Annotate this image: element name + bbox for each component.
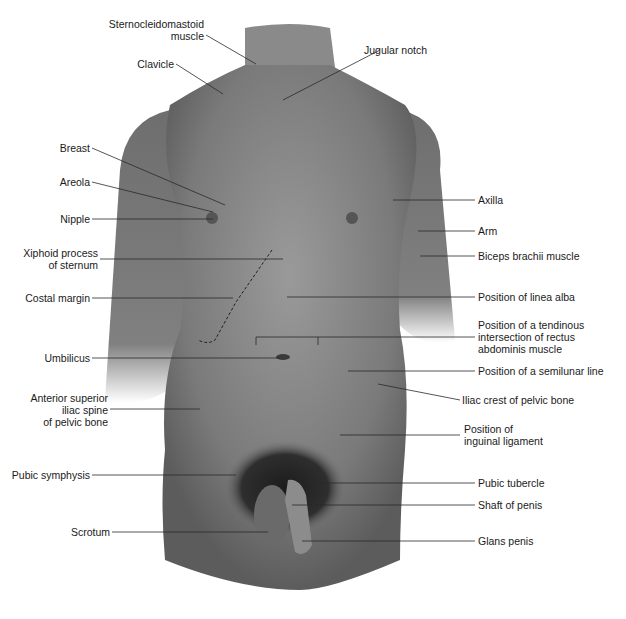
label-sternocleidomastoid: Sternocleidomastoid muscle bbox=[96, 18, 204, 42]
anatomy-figure: Sternocleidomastoid muscle Clavicle Brea… bbox=[0, 0, 626, 619]
scrotum-shape bbox=[254, 485, 290, 545]
label-tendinous-intersection: Position of a tendinous intersection of … bbox=[478, 319, 584, 355]
label-clavicle: Clavicle bbox=[100, 58, 174, 70]
label-arm: Arm bbox=[478, 225, 497, 237]
label-breast: Breast bbox=[20, 142, 90, 154]
label-inguinal-ligament: Position of inguinal ligament bbox=[464, 423, 543, 447]
label-costal-margin: Costal margin bbox=[4, 292, 90, 304]
label-axilla: Axilla bbox=[478, 194, 503, 206]
label-anterior-superior-iliac-spine: Anterior superior iliac spine of pelvic … bbox=[4, 392, 108, 428]
label-shaft-of-penis: Shaft of penis bbox=[478, 499, 542, 511]
right-nipple-shape bbox=[346, 212, 358, 224]
label-xiphoid-process: Xiphoid process of sternum bbox=[4, 247, 98, 271]
label-pubic-symphysis: Pubic symphysis bbox=[4, 469, 90, 481]
label-scrotum: Scrotum bbox=[20, 526, 110, 538]
left-nipple-shape bbox=[206, 212, 218, 224]
label-iliac-crest: Iliac crest of pelvic bone bbox=[462, 394, 574, 406]
label-jugular-notch: Jugular notch bbox=[364, 44, 427, 56]
label-umbilicus: Umbilicus bbox=[20, 352, 90, 364]
umbilicus-shape bbox=[276, 354, 290, 360]
label-biceps-brachii: Biceps brachii muscle bbox=[478, 250, 580, 262]
label-pubic-tubercle: Pubic tubercle bbox=[478, 477, 545, 489]
label-glans-penis: Glans penis bbox=[478, 535, 533, 547]
label-semilunar-line: Position of a semilunar line bbox=[478, 365, 603, 377]
label-linea-alba: Position of linea alba bbox=[478, 291, 575, 303]
label-nipple: Nipple bbox=[20, 213, 90, 225]
label-areola: Areola bbox=[20, 176, 90, 188]
